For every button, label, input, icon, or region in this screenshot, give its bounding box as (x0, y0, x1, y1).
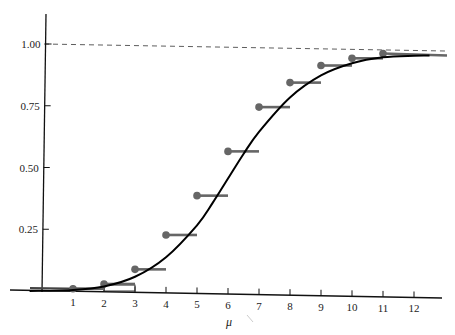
step-point (317, 62, 325, 70)
scan-mark (247, 315, 253, 322)
x-tick-label: 5 (194, 298, 200, 310)
x-tick-label: 1 (70, 296, 76, 308)
s-curve (30, 56, 430, 291)
x-tick-label: 8 (287, 300, 293, 312)
step-point (162, 231, 170, 239)
x-ticks: 123456789101112 (70, 285, 419, 314)
y-ticks: 0.250.500.751.00 (19, 38, 52, 235)
x-tick-label: 10 (347, 301, 359, 313)
chart: 0.250.500.751.00 123456789101112 μ (0, 0, 455, 335)
step-point (224, 148, 232, 156)
x-tick-label: 4 (163, 298, 169, 310)
x-tick-label: 2 (101, 297, 107, 309)
y-tick-label: 0.25 (19, 223, 39, 235)
x-tick-label: 3 (132, 297, 138, 309)
x-tick-label: 9 (318, 301, 324, 313)
reference-line-1 (44, 44, 445, 51)
x-tick-label: 7 (256, 300, 262, 312)
step-point (348, 55, 356, 63)
step-point (69, 285, 77, 293)
step-point (255, 103, 263, 111)
y-tick-label: 0.50 (20, 162, 40, 174)
y-tick-label: 1.00 (21, 38, 41, 50)
step-point (131, 266, 139, 274)
step-series (69, 50, 447, 293)
step-point (286, 79, 294, 87)
step-point (193, 192, 201, 200)
x-tick-label: 6 (225, 299, 231, 311)
x-tick-label: 11 (378, 302, 389, 314)
y-axis (42, 14, 46, 292)
x-tick-label: 12 (409, 302, 420, 314)
x-axis-label: μ (225, 315, 232, 329)
y-tick-label: 0.75 (20, 100, 40, 112)
